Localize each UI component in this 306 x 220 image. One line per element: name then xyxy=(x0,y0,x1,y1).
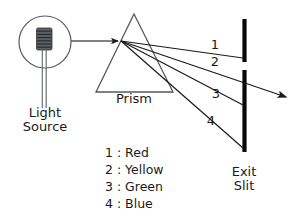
light-bulb-icon xyxy=(19,16,71,108)
ray-marker-4: 4 xyxy=(207,113,215,128)
legend-item-4: 4 : Blue xyxy=(105,196,153,211)
prism-label: Prism xyxy=(116,91,152,106)
legend-item-3: 3 : Green xyxy=(105,179,163,194)
optics-dispersion-diagram: Light Source Prism 1 2 3 4 Exit Slit xyxy=(0,0,306,220)
ray-marker-2: 2 xyxy=(211,54,219,69)
exit-slit-label-line2: Slit xyxy=(234,178,255,193)
exit-slit-label-line1: Exit xyxy=(232,164,257,179)
diagram-canvas: Light Source Prism 1 2 3 4 Exit Slit xyxy=(0,0,306,220)
color-legend: 1 : Red 2 : Yellow 3 : Green 4 : Blue xyxy=(105,145,164,211)
ray-marker-3: 3 xyxy=(212,86,220,101)
filament-coil-icon xyxy=(37,28,53,50)
legend-item-1: 1 : Red xyxy=(105,145,149,160)
bulb-leads xyxy=(42,50,46,108)
legend-item-2: 2 : Yellow xyxy=(105,162,164,177)
light-source-label-line2: Source xyxy=(23,119,68,134)
ray-1-red xyxy=(121,41,243,58)
ray-marker-1: 1 xyxy=(211,37,219,52)
light-source-label-line1: Light xyxy=(29,105,61,120)
ray-2-yellow xyxy=(121,41,286,97)
